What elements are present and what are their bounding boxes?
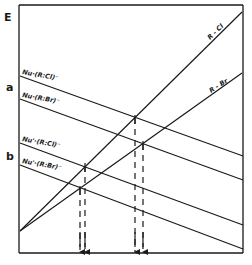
- panel-label-a: a: [6, 81, 13, 94]
- energy-axis-label: E: [4, 11, 12, 24]
- energy-diagram: E a b R - Cl R - Br Nu·(R:Cl)⁻ Nu·(R:Br)…: [0, 0, 252, 265]
- nu-rcl-label: Nu·(R:Cl)⁻: [22, 68, 59, 82]
- nu-rbr-label: Nu·(R:Br)⁻: [22, 91, 61, 105]
- panel-label-b: b: [6, 150, 14, 163]
- nu-prime-rcl-label: Nu'·(R:Cl)⁻: [22, 135, 61, 150]
- plot-frame: [19, 5, 243, 253]
- nu-prime-rbr-label: Nu'·(R:Br)⁻: [22, 157, 62, 172]
- nu-prime-rcl-line: [20, 143, 243, 225]
- r-br-label: R - Br: [208, 76, 230, 94]
- r-cl-line: [20, 12, 242, 231]
